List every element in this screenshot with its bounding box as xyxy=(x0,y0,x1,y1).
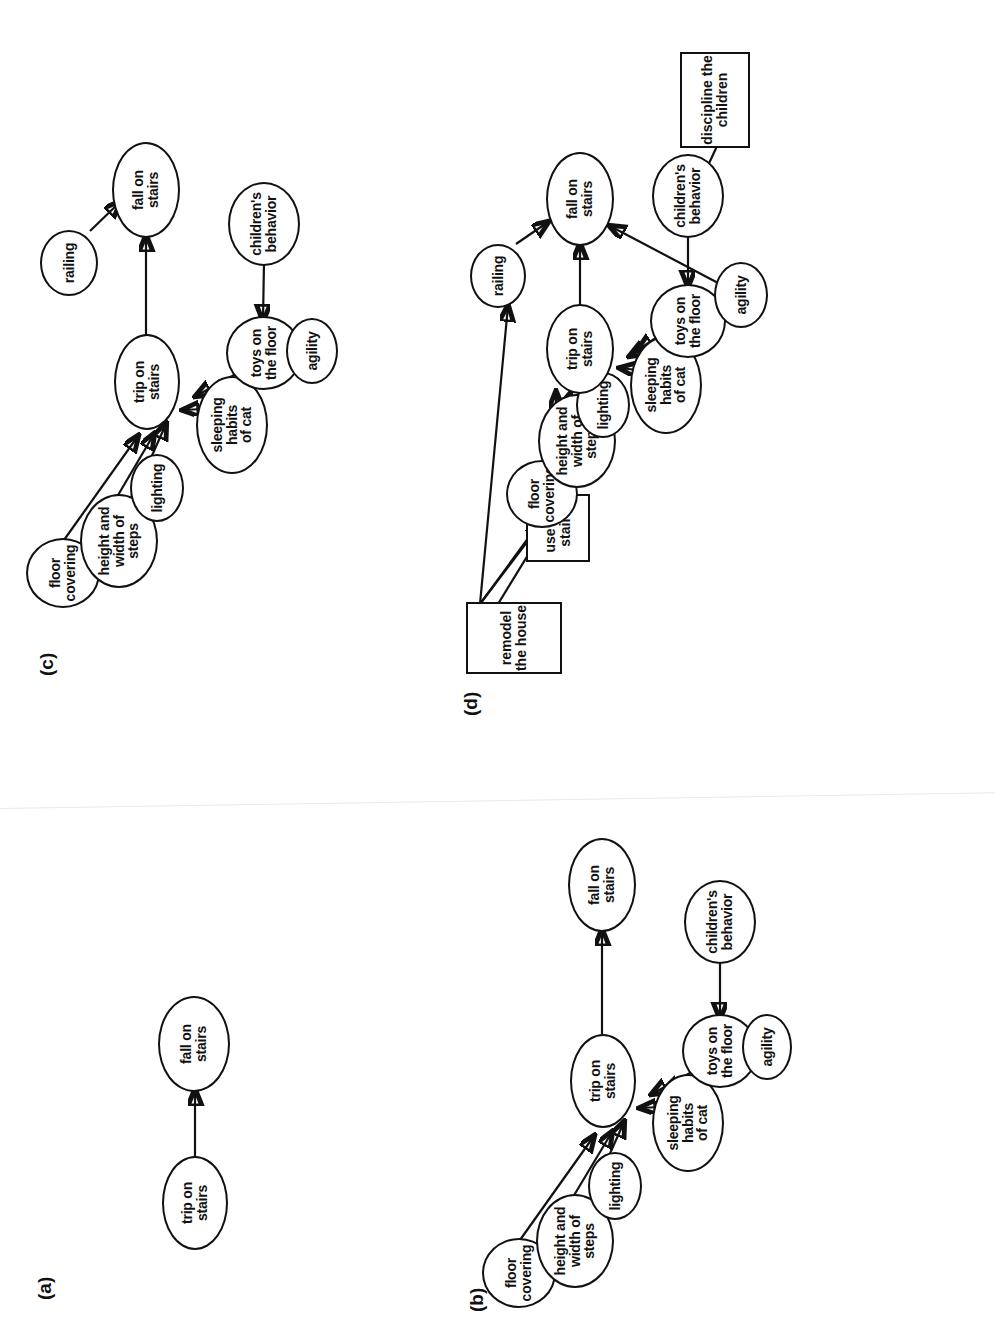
node-label: sleeping habitsof cat xyxy=(210,378,254,472)
node-label: agility xyxy=(760,1024,775,1069)
node-agility[interactable]: agility xyxy=(742,1014,792,1080)
node-label: children'sbehavior xyxy=(249,189,279,259)
figure-canvas: floorcovering height andwidth of steps l… xyxy=(0,0,995,1340)
node-label: agility xyxy=(305,328,320,373)
node-label: children'sbehavior xyxy=(705,887,735,957)
panel-label-c: (c) xyxy=(36,653,58,676)
panel-label-d: (d) xyxy=(460,692,482,716)
node-label: floorcovering xyxy=(504,1242,534,1305)
node-agility[interactable]: agility xyxy=(286,318,338,384)
node-trip-on-stairs[interactable]: trip onstairs xyxy=(570,1034,636,1128)
panel-label-b: (b) xyxy=(466,1288,488,1312)
node-label: railing xyxy=(62,240,77,287)
node-fall-on-stairs[interactable]: fall onstairs xyxy=(546,152,614,246)
node-label: height andwidth of steps xyxy=(97,496,141,586)
panel-c: floorcovering height andwidth of steps l… xyxy=(18,22,338,632)
node-trip-on-stairs[interactable]: trip onstairs xyxy=(114,334,180,430)
node-fall-on-stairs[interactable]: fall onstairs xyxy=(568,838,636,932)
node-label: toys onthe floor xyxy=(673,291,703,351)
node-label: trip onstairs xyxy=(565,325,595,373)
box-remodel-the-house[interactable]: remodelthe house xyxy=(466,602,562,674)
node-agility[interactable]: agility xyxy=(714,262,768,328)
node-sleeping-habits-of-cat[interactable]: sleeping habitsof cat xyxy=(196,376,268,474)
box-label: discipline thechildren xyxy=(700,55,731,144)
node-fall-on-stairs[interactable]: fall onstairs xyxy=(112,142,180,238)
node-railing[interactable]: railing xyxy=(40,230,98,296)
panel-label-a: (a) xyxy=(34,1277,56,1300)
node-lighting[interactable]: lighting xyxy=(588,1152,642,1220)
node-fall-on-stairs[interactable]: fall onstairs xyxy=(158,996,230,1092)
node-lighting[interactable]: lighting xyxy=(130,454,184,522)
box-discipline-the-children[interactable]: discipline thechildren xyxy=(680,52,750,148)
node-label: children'sbehavior xyxy=(673,161,703,231)
node-label: lighting xyxy=(150,461,165,516)
node-label: trip onstairs xyxy=(588,1057,618,1105)
node-trip-on-stairs[interactable]: trip onstairs xyxy=(162,1156,228,1250)
panel-d: remodelthe house use thestairs disciplin… xyxy=(452,18,792,678)
node-label: lighting xyxy=(608,1159,623,1214)
node-label: sleeping habitsof cat xyxy=(666,1076,710,1170)
node-label: trip onstairs xyxy=(180,1179,210,1227)
node-label: fall onstairs xyxy=(565,176,595,222)
node-childrens-behavior[interactable]: children'sbehavior xyxy=(684,880,756,964)
node-childrens-behavior[interactable]: children'sbehavior xyxy=(228,182,300,266)
node-label: fall onstairs xyxy=(587,862,617,908)
node-label: trip onstairs xyxy=(132,358,162,406)
node-railing[interactable]: railing xyxy=(470,244,526,308)
node-label: toys onthe floor xyxy=(249,323,279,383)
node-label: height andwidth of steps xyxy=(553,1196,597,1286)
node-label: fall onstairs xyxy=(179,1021,209,1067)
node-label: toys onthe floor xyxy=(705,1021,735,1081)
panel-a: trip onstairs fall onstairs xyxy=(120,980,270,1250)
panel-b: floorcovering height andwidth of steps l… xyxy=(472,752,792,1314)
node-label: floorcovering xyxy=(48,542,78,605)
box-label: remodelthe house xyxy=(499,605,530,671)
node-trip-on-stairs[interactable]: trip onstairs xyxy=(546,304,614,394)
node-label: railing xyxy=(491,253,506,300)
node-sleeping-habits-of-cat[interactable]: sleeping habitsof cat xyxy=(652,1074,724,1172)
node-label: agility xyxy=(734,272,749,317)
node-childrens-behavior[interactable]: children'sbehavior xyxy=(652,154,724,238)
node-label: fall onstairs xyxy=(131,167,161,213)
